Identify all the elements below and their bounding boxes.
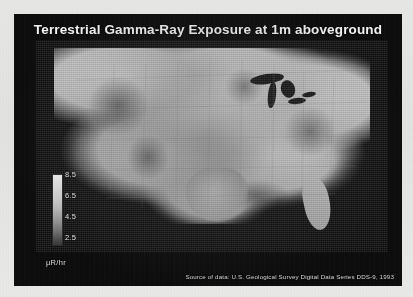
legend-tick-2: 4.5 [65,212,76,221]
legend-tick-1: 6.5 [65,191,76,200]
legend-tick-0: 8.5 [65,170,76,179]
source-caption: Source of data: U.S. Geological Survey D… [185,273,394,280]
legend-tick-3: 2.5 [65,233,76,242]
legend: 8.5 6.5 4.5 2.5 µR/hr [46,170,110,266]
figure-panel: Terrestrial Gamma-Ray Exposure at 1m abo… [14,14,402,286]
texas-gulf-lobe [186,168,248,222]
page-title: Terrestrial Gamma-Ray Exposure at 1m abo… [14,22,402,37]
legend-units-label: µR/hr [46,258,66,267]
legend-colorbar [52,174,63,246]
